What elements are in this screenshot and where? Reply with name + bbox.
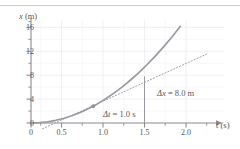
- y-tick-label: 12: [12, 48, 34, 56]
- delta-t-symbol: Δt: [103, 109, 110, 119]
- x-axis-label-unit: (s): [221, 120, 230, 130]
- delta-x-unit: m: [188, 88, 195, 98]
- y-axis-label-unit: (m): [25, 11, 37, 21]
- position-time-graph-figure: x (m) t (s) 0 4 8 12 16 0 0.5 1.0 1.5 2.…: [0, 0, 240, 149]
- x-axis-label: t (s): [216, 121, 229, 130]
- y-axis-label-symbol: x: [19, 11, 23, 21]
- y-tick-label: 4: [12, 96, 34, 104]
- x-tick-label: 0.5: [50, 129, 74, 137]
- delta-t-unit: s: [132, 109, 135, 119]
- delta-x-value: 8.0: [175, 88, 186, 98]
- x-tick-label: 0: [19, 129, 43, 137]
- delta-t-annotation: Δt = 1.0 s: [103, 110, 135, 119]
- y-axis-label: x (m): [19, 12, 37, 21]
- y-tick-label: 16: [12, 24, 34, 32]
- y-tick-label: 0: [12, 120, 34, 128]
- tangent-point-marker: [91, 104, 95, 108]
- delta-t-value: 1.0: [119, 109, 130, 119]
- plot-canvas: [0, 0, 240, 149]
- x-tick-label: 2.0: [174, 129, 198, 137]
- x-tick-label: 1.5: [133, 129, 157, 137]
- delta-x-annotation: Δx = 8.0 m: [157, 89, 194, 98]
- x-tick-label: 1.0: [91, 129, 115, 137]
- y-tick-label: 8: [12, 72, 34, 80]
- x-axis-label-symbol: t: [216, 120, 218, 130]
- delta-x-symbol: Δx: [157, 88, 166, 98]
